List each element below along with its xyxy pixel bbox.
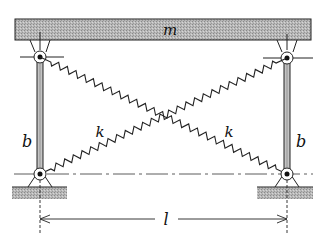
rod-left-label: b [22,132,32,151]
spring-right-label: k [224,123,233,141]
ground-support-left [12,168,67,199]
mass-label: m [163,21,177,39]
spring-left-label: k [95,123,104,141]
mechanism-diagram: m [0,0,329,243]
rod-right-label: b [296,132,306,151]
ground-support-right [257,168,313,199]
span-label: l [163,210,168,229]
rod-right [284,62,290,169]
rod-left [37,62,43,169]
